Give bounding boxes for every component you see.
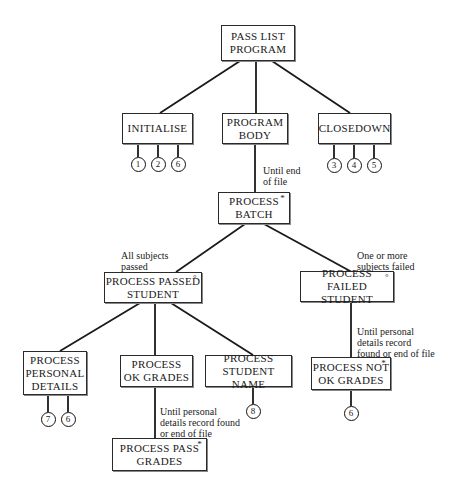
selection-marker: ° xyxy=(193,274,197,283)
condition-label: Until personal details record found or e… xyxy=(160,406,240,439)
node-label: PROCESS OK GRADES xyxy=(124,358,189,384)
node-label: PROCESS PASS GRADES xyxy=(120,442,199,468)
iteration-marker: * xyxy=(197,440,202,449)
operation-circle-6: 6 xyxy=(171,157,186,172)
condition-label: One or more subjects failed xyxy=(357,250,414,272)
node-process-pass-grades: PROCESS PASS GRADES* xyxy=(112,438,207,471)
operation-circle-5: 5 xyxy=(367,158,382,173)
condition-label: Until end of file xyxy=(263,165,301,187)
structure-chart: PASS LIST PROGRAMINITIALISEPROGRAM BODYC… xyxy=(0,0,455,498)
node-initialise: INITIALISE xyxy=(122,113,193,144)
node-process-batch: PROCESS BATCH* xyxy=(218,192,290,224)
edge-process-batch-to-process-failed-student xyxy=(264,224,350,271)
iteration-marker: * xyxy=(280,194,285,203)
node-process-not-ok-grades: PROCESS NOT OK GRADES* xyxy=(311,357,391,390)
node-label: PROCESS PERSONAL DETAILS xyxy=(25,354,84,393)
edge-pass-list-program-to-initialise xyxy=(160,61,240,113)
operation-circle-8: 8 xyxy=(246,404,261,419)
operation-circle-4: 4 xyxy=(347,158,362,173)
node-pass-list-program: PASS LIST PROGRAM xyxy=(221,25,295,61)
selection-marker: ° xyxy=(385,273,389,282)
edge-pass-list-program-to-closedown xyxy=(272,61,350,113)
node-label: CLOSEDOWN xyxy=(319,122,391,135)
node-process-failed-student: PROCESS FAILED STUDENT° xyxy=(300,271,394,302)
node-label: PROCESS FAILED STUDENT xyxy=(301,267,393,306)
node-label: PROCESS PASSED STUDENT xyxy=(106,275,201,301)
node-process-passed-student: PROCESS PASSED STUDENT° xyxy=(104,272,202,303)
operation-circle-1: 1 xyxy=(131,157,146,172)
node-process-personal-details: PROCESS PERSONAL DETAILS xyxy=(23,351,87,395)
node-process-ok-grades: PROCESS OK GRADES xyxy=(120,355,193,387)
node-process-student-name: PROCESS STUDENT NAME xyxy=(205,355,292,387)
edge-process-passed-student-to-process-personal-details xyxy=(60,303,140,351)
operation-circle-6: 6 xyxy=(344,406,359,421)
operation-circle-6: 6 xyxy=(61,412,76,427)
node-label: INITIALISE xyxy=(128,122,188,135)
edge-process-batch-to-process-passed-student xyxy=(176,224,245,272)
operation-circle-7: 7 xyxy=(41,412,56,427)
node-label: PASS LIST PROGRAM xyxy=(230,30,287,56)
node-program-body: PROGRAM BODY xyxy=(222,113,288,144)
node-label: PROCESS NOT OK GRADES xyxy=(313,361,389,387)
node-label: PROGRAM BODY xyxy=(227,116,284,142)
condition-label: All subjects passed xyxy=(121,250,169,272)
operation-circle-2: 2 xyxy=(151,157,166,172)
edge-process-passed-student-to-process-student-name xyxy=(171,303,253,355)
iteration-marker: * xyxy=(381,359,386,368)
node-closedown: CLOSEDOWN xyxy=(318,113,391,144)
node-label: PROCESS STUDENT NAME xyxy=(206,352,291,391)
condition-label: Until personal details record found or e… xyxy=(357,326,435,359)
operation-circle-3: 3 xyxy=(327,158,342,173)
node-label: PROCESS BATCH xyxy=(229,195,279,221)
